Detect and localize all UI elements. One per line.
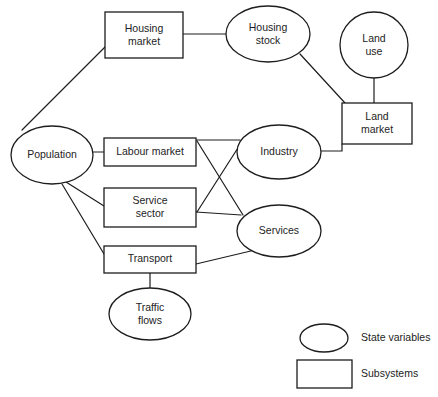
legend-subsystems-swatch [297, 360, 352, 388]
node-label-industry: Industry [260, 145, 298, 157]
node-label-housing_market-line2: market [128, 35, 160, 47]
edge-population-transport [62, 184, 104, 254]
node-label-service_sector-line1: Service [132, 194, 167, 206]
node-label-housing_stock-line1: Housing [249, 21, 288, 33]
diagram-root: HousingmarketHousingstockLanduseLandmark… [0, 0, 438, 397]
edge-industry-land-market [321, 144, 342, 151]
legend-subsystems: Subsystems [297, 360, 418, 388]
node-label-housing_market-line1: Housing [125, 22, 164, 34]
node-label-land_market-line2: market [361, 123, 393, 135]
edge-population-service-sector [66, 182, 104, 206]
node-land_market[interactable]: Landmarket [342, 103, 412, 144]
node-label-labour_market: Labour market [116, 145, 184, 157]
edge-labour-market-services [197, 141, 243, 215]
nodes-layer: HousingmarketHousingstockLanduseLandmark… [11, 6, 412, 340]
node-transport[interactable]: Transport [104, 246, 196, 273]
node-traffic_flows[interactable]: Trafficflows [109, 288, 191, 340]
node-label-land_use-line2: use [366, 45, 383, 57]
node-housing_market[interactable]: Housingmarket [105, 12, 183, 58]
edge-transport-services [196, 250, 255, 264]
node-label-housing_stock-line2: stock [256, 34, 281, 46]
system-diagram-canvas: HousingmarketHousingstockLanduseLandmark… [0, 0, 438, 397]
edge-service-sector-services [196, 212, 241, 215]
node-label-population: Population [27, 148, 77, 160]
node-services[interactable]: Services [237, 205, 321, 257]
edge-housing-stock-land-market [300, 54, 345, 103]
legend-state-variables-label: State variables [361, 331, 430, 343]
legend-subsystems-label: Subsystems [361, 367, 418, 379]
node-population[interactable]: Population [11, 126, 93, 184]
edge-population-housing-market [22, 47, 105, 130]
node-label-traffic_flows-line2: flows [138, 314, 162, 326]
node-service_sector[interactable]: Servicesector [104, 188, 196, 227]
node-label-service_sector-line2: sector [136, 207, 165, 219]
node-label-land_market-line1: Land [365, 110, 389, 122]
legend-layer: State variablesSubsystems [297, 324, 430, 388]
node-industry[interactable]: Industry [237, 125, 321, 179]
node-land_use[interactable]: Landuse [340, 12, 408, 78]
node-label-transport: Transport [128, 252, 173, 264]
legend-state-variables: State variables [300, 324, 430, 352]
edge-service-sector-industry [197, 140, 243, 212]
node-labour_market[interactable]: Labour market [104, 138, 196, 166]
node-label-traffic_flows-line1: Traffic [136, 301, 165, 313]
node-label-land_use-line1: Land [362, 32, 386, 44]
node-housing_stock[interactable]: Housingstock [226, 6, 310, 62]
legend-state-variables-swatch [300, 324, 348, 352]
node-label-services: Services [259, 224, 299, 236]
